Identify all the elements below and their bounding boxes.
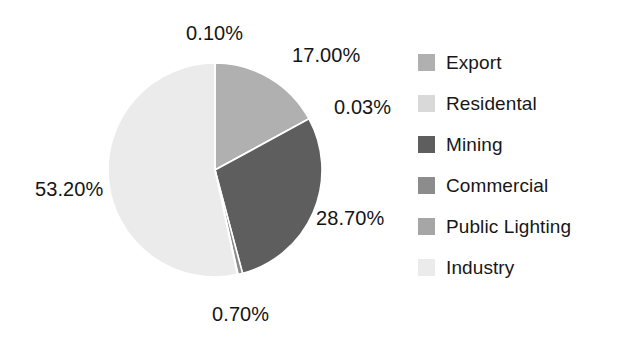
legend-item[interactable]: Commercial	[418, 165, 624, 206]
legend-item[interactable]: Residental	[418, 83, 624, 124]
pie-plot-area: 53.20% 0.10% 17.00% 0.03% 28.70% 0.70%	[0, 0, 420, 344]
legend-swatch-icon	[418, 218, 435, 235]
legend-swatch-icon	[418, 259, 435, 276]
chart-legend: ExportResidentalMiningCommercialPublic L…	[418, 42, 624, 288]
legend-swatch-icon	[418, 54, 435, 71]
legend-item-label: Public Lighting	[446, 216, 571, 238]
pie-chart: 53.20% 0.10% 17.00% 0.03% 28.70% 0.70% E…	[0, 0, 626, 344]
legend-item-label: Export	[446, 52, 502, 74]
legend-item-label: Commercial	[446, 175, 548, 197]
data-label-mining: 28.70%	[316, 207, 384, 230]
data-label-industry: 53.20%	[35, 178, 103, 201]
legend-item[interactable]: Export	[418, 42, 624, 83]
data-label-commercial: 0.70%	[212, 303, 269, 326]
legend-item[interactable]: Industry	[418, 247, 624, 288]
legend-swatch-icon	[418, 177, 435, 194]
data-label-residental: 0.03%	[334, 96, 391, 119]
pie-slice-group	[108, 63, 322, 277]
legend-item[interactable]: Mining	[418, 124, 624, 165]
data-label-public-lighting: 0.10%	[186, 22, 243, 45]
legend-item-label: Industry	[446, 257, 514, 279]
legend-item[interactable]: Public Lighting	[418, 206, 624, 247]
legend-swatch-icon	[418, 95, 435, 112]
legend-item-label: Mining	[446, 134, 503, 156]
legend-swatch-icon	[418, 136, 435, 153]
legend-item-label: Residental	[446, 93, 537, 115]
data-label-export: 17.00%	[292, 44, 360, 67]
